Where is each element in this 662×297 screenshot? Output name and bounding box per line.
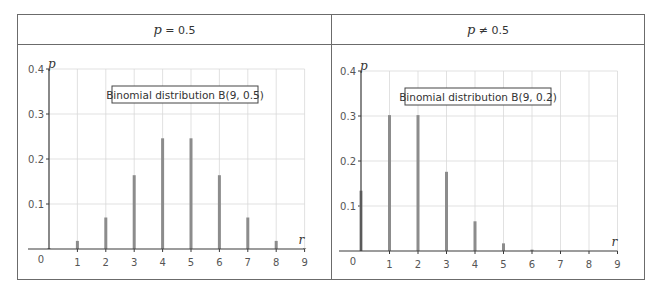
bar-r3 (445, 172, 448, 251)
x-tick-label: 2 (415, 259, 421, 270)
x-tick-label: 5 (500, 259, 506, 270)
x-tick-label: 0 (350, 256, 356, 267)
bar-r2 (417, 115, 420, 251)
y-axis-label: p (360, 59, 368, 73)
x-tick-label: 9 (614, 259, 620, 270)
x-tick-label: 1 (386, 259, 392, 270)
x-tick-label: 3 (443, 259, 449, 270)
y-tick-label: 0.2 (340, 156, 356, 167)
x-tick-label: 4 (472, 259, 478, 270)
bar-r4 (474, 221, 477, 251)
y-tick-label: 0.4 (340, 66, 356, 77)
y-tick-label: 0.3 (340, 111, 356, 122)
x-tick-label: 7 (557, 259, 563, 270)
legend-label: Binomial distribution B(9, 0.2) (399, 91, 557, 103)
y-tick-label: 0.1 (340, 201, 356, 212)
x-tick-label: 6 (529, 259, 535, 270)
x-tick-label: 8 (586, 259, 592, 270)
chart-binomial-9-0.2: 0.10.20.30.40123456789prBinomial distrib… (0, 0, 662, 297)
bar-r5 (502, 243, 505, 251)
bar-r1 (388, 115, 391, 251)
